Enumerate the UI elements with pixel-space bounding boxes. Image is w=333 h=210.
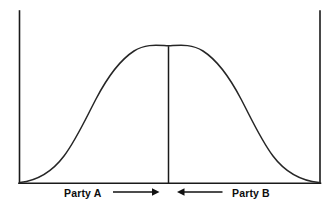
- party-b-arrow-icon: [177, 188, 223, 195]
- party-b-label: Party B: [232, 187, 270, 199]
- party-a-label: Party A: [64, 187, 102, 199]
- bell-curve-figure: Party A Party B: [0, 0, 333, 210]
- party-a-arrow-icon: [113, 188, 160, 195]
- chart-canvas: Party A Party B: [0, 0, 333, 210]
- bell-curve: [20, 45, 319, 182]
